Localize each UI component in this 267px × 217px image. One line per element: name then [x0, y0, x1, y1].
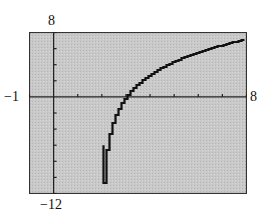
ymin-label: −12 [40, 198, 62, 212]
ymax-label: 8 [48, 14, 55, 28]
plot-background [30, 33, 247, 194]
graph-screen [29, 32, 247, 194]
xmin-label: −1 [4, 90, 19, 104]
xmax-label: 8 [250, 90, 257, 104]
